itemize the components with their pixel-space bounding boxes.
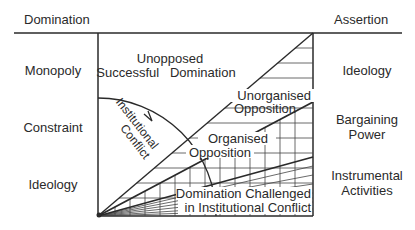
arc-arrow-icon (144, 111, 152, 121)
label-challenged-2: in Institutional Conflict (185, 200, 312, 215)
origin-point (97, 213, 102, 218)
label-unopposed-2: Successful Domination (96, 65, 235, 80)
label-organised-1: Organised (208, 131, 268, 146)
label-organised-2: Opposition (189, 145, 251, 160)
domination-assertion-diagram: Unopposed Successful Domination Unorgani… (0, 0, 415, 230)
label-unopposed-1: Unopposed (137, 51, 204, 66)
label-challenged-1: Domination Challenged (176, 186, 311, 201)
label-unorganised-2: Opposition (234, 101, 296, 116)
